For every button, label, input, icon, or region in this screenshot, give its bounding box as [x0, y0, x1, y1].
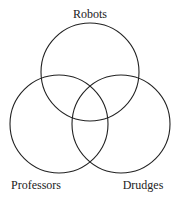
- circle-robots: [41, 23, 139, 121]
- label-robots: Robots: [73, 7, 107, 21]
- circle-drudges: [72, 75, 170, 173]
- venn-diagram: Robots Professors Drudges: [0, 0, 179, 200]
- circle-professors: [10, 75, 108, 173]
- label-professors: Professors: [11, 178, 61, 192]
- label-drudges: Drudges: [123, 178, 164, 192]
